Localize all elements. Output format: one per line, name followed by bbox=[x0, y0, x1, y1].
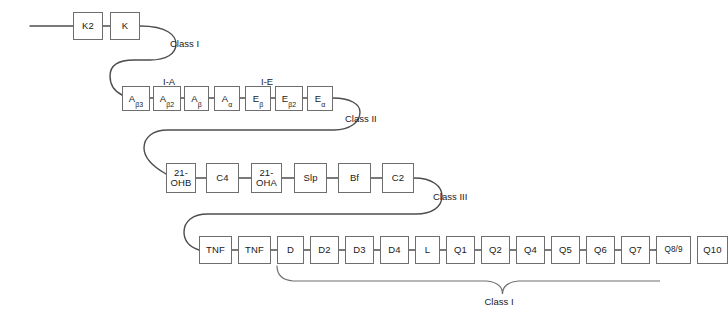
gene-box-q8-9[interactable]: Q8/9 bbox=[656, 236, 691, 264]
gene-box-bf[interactable]: Bf bbox=[338, 163, 371, 193]
gene-box-label: 21- OHA bbox=[256, 168, 277, 187]
gene-box-q10[interactable]: Q10 bbox=[697, 236, 728, 264]
gene-box-a-beta2[interactable]: Aβ2 bbox=[153, 86, 181, 111]
gene-box-label: D4 bbox=[388, 245, 400, 255]
gene-box-k[interactable]: K bbox=[110, 12, 140, 40]
gene-box-q6[interactable]: Q6 bbox=[586, 236, 615, 264]
gene-box-label: Eα bbox=[315, 94, 326, 104]
gene-box-label: Q1 bbox=[454, 245, 467, 255]
gene-box-d4[interactable]: D4 bbox=[380, 236, 409, 264]
gene-box-label: Bf bbox=[350, 173, 359, 183]
gene-box-c4[interactable]: C4 bbox=[206, 163, 239, 193]
gene-box-21-ohb[interactable]: 21- OHB bbox=[166, 163, 196, 193]
gene-box-label: TNF bbox=[206, 245, 225, 255]
brace-label-class-i: Class I bbox=[485, 296, 514, 307]
gene-box-label: K bbox=[122, 21, 128, 31]
gene-box-label: D3 bbox=[353, 245, 365, 255]
gene-box-tnf-2[interactable]: TNF bbox=[238, 236, 271, 264]
gene-box-label: Q4 bbox=[524, 245, 537, 255]
gene-box-label: K2 bbox=[82, 21, 94, 31]
gene-box-label: Q10 bbox=[703, 245, 721, 255]
gene-box-a-beta3[interactable]: Aβ3 bbox=[122, 86, 150, 111]
gene-box-q4[interactable]: Q4 bbox=[516, 236, 545, 264]
gene-box-l[interactable]: L bbox=[415, 236, 440, 264]
gene-box-label: Aβ2 bbox=[160, 94, 175, 104]
gene-box-e-beta[interactable]: Eβ bbox=[245, 86, 271, 111]
class-label-row-1: Class I bbox=[170, 38, 199, 49]
gene-box-label: 21- OHB bbox=[171, 168, 192, 187]
gene-box-d3[interactable]: D3 bbox=[345, 236, 374, 264]
gene-box-label: D bbox=[287, 245, 294, 255]
gene-box-label: C2 bbox=[392, 173, 404, 183]
gene-box-q2[interactable]: Q2 bbox=[481, 236, 510, 264]
gene-box-slp[interactable]: Slp bbox=[294, 163, 327, 193]
gene-box-label: Eβ2 bbox=[282, 94, 297, 104]
gene-box-label: Q6 bbox=[594, 245, 607, 255]
gene-box-label: Q2 bbox=[489, 245, 502, 255]
gene-box-label: Q8/9 bbox=[664, 246, 682, 254]
gene-box-k2[interactable]: K2 bbox=[73, 12, 103, 40]
gene-box-q5[interactable]: Q5 bbox=[551, 236, 580, 264]
gene-box-label: C4 bbox=[216, 173, 228, 183]
gene-box-label: Aβ3 bbox=[129, 94, 144, 104]
gene-box-q7[interactable]: Q7 bbox=[621, 236, 650, 264]
gene-box-label: TNF bbox=[245, 245, 264, 255]
gene-box-21-oha[interactable]: 21- OHA bbox=[251, 163, 282, 193]
class-i-brace bbox=[277, 266, 660, 294]
class-label-row-2: Class II bbox=[345, 113, 377, 124]
gene-box-label: Q7 bbox=[629, 245, 642, 255]
gene-box-label: Q5 bbox=[559, 245, 572, 255]
gene-box-label: D2 bbox=[318, 245, 330, 255]
gene-box-q1[interactable]: Q1 bbox=[446, 236, 475, 264]
gene-box-a-beta[interactable]: Aβ bbox=[184, 86, 209, 111]
gene-box-d2[interactable]: D2 bbox=[310, 236, 339, 264]
gene-box-label: Eβ bbox=[253, 94, 264, 104]
gene-box-tnf-1[interactable]: TNF bbox=[199, 236, 232, 264]
gene-box-a-alpha[interactable]: Aα bbox=[214, 86, 240, 111]
gene-box-e-alpha[interactable]: Eα bbox=[307, 86, 333, 111]
class-label-row-3: Class III bbox=[433, 191, 467, 202]
gene-box-label: Aα bbox=[222, 94, 233, 104]
gene-box-label: L bbox=[425, 245, 430, 255]
gene-box-c2[interactable]: C2 bbox=[382, 163, 414, 193]
gene-box-label: Aβ bbox=[191, 94, 202, 104]
gene-box-e-beta2[interactable]: Eβ2 bbox=[275, 86, 303, 111]
gene-box-label: Slp bbox=[303, 173, 317, 183]
gene-box-d[interactable]: D bbox=[277, 236, 304, 264]
